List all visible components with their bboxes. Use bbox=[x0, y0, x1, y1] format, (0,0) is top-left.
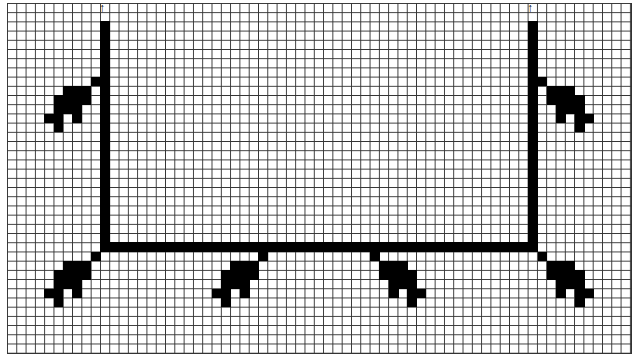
leaf-motif bbox=[575, 298, 585, 308]
horizontal-line bbox=[435, 242, 445, 252]
horizontal-line bbox=[137, 242, 147, 252]
horizontal-line bbox=[193, 242, 203, 252]
horizontal-line bbox=[314, 242, 324, 252]
leaf-motif bbox=[72, 114, 82, 124]
leaf-motif bbox=[91, 252, 101, 262]
horizontal-line bbox=[482, 242, 492, 252]
leaf-motif bbox=[538, 252, 548, 262]
horizontal-line bbox=[491, 242, 501, 252]
arrow-up-icon-right: ↑ bbox=[527, 3, 533, 13]
leaf-motif bbox=[556, 114, 566, 124]
leaf-motif bbox=[547, 95, 557, 105]
leaf-motif bbox=[44, 289, 54, 299]
leaf-motif bbox=[54, 298, 64, 308]
horizontal-line bbox=[147, 242, 157, 252]
leaf-motif bbox=[370, 252, 380, 262]
leaf-motif bbox=[389, 289, 399, 299]
leaf-motif bbox=[91, 77, 101, 87]
leaf-motif bbox=[81, 95, 91, 105]
horizontal-line bbox=[100, 242, 110, 252]
horizontal-line bbox=[156, 242, 166, 252]
horizontal-line bbox=[212, 242, 222, 252]
horizontal-line bbox=[286, 242, 296, 252]
horizontal-line bbox=[519, 242, 529, 252]
horizontal-line bbox=[379, 242, 389, 252]
horizontal-line bbox=[165, 242, 175, 252]
horizontal-line bbox=[268, 242, 278, 252]
leaf-motif bbox=[379, 270, 389, 280]
horizontal-line bbox=[454, 242, 464, 252]
leaf-motif bbox=[81, 270, 91, 280]
horizontal-line bbox=[333, 242, 343, 252]
horizontal-line bbox=[445, 242, 455, 252]
horizontal-line bbox=[221, 242, 231, 252]
horizontal-line bbox=[305, 242, 315, 252]
leaf-motif bbox=[584, 289, 594, 299]
horizontal-line bbox=[249, 242, 259, 252]
leaf-motif bbox=[566, 279, 576, 289]
horizontal-line bbox=[203, 242, 213, 252]
leaf-motif bbox=[258, 252, 268, 262]
horizontal-line bbox=[128, 242, 138, 252]
leaf-motif bbox=[575, 123, 585, 133]
leaf-motif bbox=[212, 289, 222, 299]
leaf-motif bbox=[417, 289, 427, 299]
leaf-motif bbox=[221, 298, 231, 308]
horizontal-line bbox=[398, 242, 408, 252]
leaf-motif bbox=[230, 279, 240, 289]
horizontal-line bbox=[417, 242, 427, 252]
horizontal-line bbox=[389, 242, 399, 252]
leaf-motif bbox=[398, 279, 408, 289]
horizontal-line bbox=[109, 242, 119, 252]
horizontal-line bbox=[277, 242, 287, 252]
leaf-motif bbox=[407, 298, 417, 308]
arrow-up-icon-left: ↑ bbox=[99, 3, 105, 13]
horizontal-line bbox=[500, 242, 510, 252]
horizontal-line bbox=[463, 242, 473, 252]
leaf-motif bbox=[584, 114, 594, 124]
leaf-motif bbox=[54, 123, 64, 133]
leaf-motif bbox=[547, 270, 557, 280]
leaf-motif bbox=[249, 270, 259, 280]
horizontal-line bbox=[324, 242, 334, 252]
horizontal-line bbox=[426, 242, 436, 252]
leaf-motif bbox=[538, 77, 548, 87]
leaf-motif bbox=[556, 289, 566, 299]
horizontal-line bbox=[342, 242, 352, 252]
leaf-motif bbox=[240, 289, 250, 299]
leaf-motif bbox=[566, 104, 576, 114]
leaf-motif bbox=[72, 289, 82, 299]
leaf-motif bbox=[44, 114, 54, 124]
horizontal-line bbox=[184, 242, 194, 252]
horizontal-line bbox=[510, 242, 520, 252]
horizontal-line bbox=[361, 242, 371, 252]
horizontal-line bbox=[230, 242, 240, 252]
